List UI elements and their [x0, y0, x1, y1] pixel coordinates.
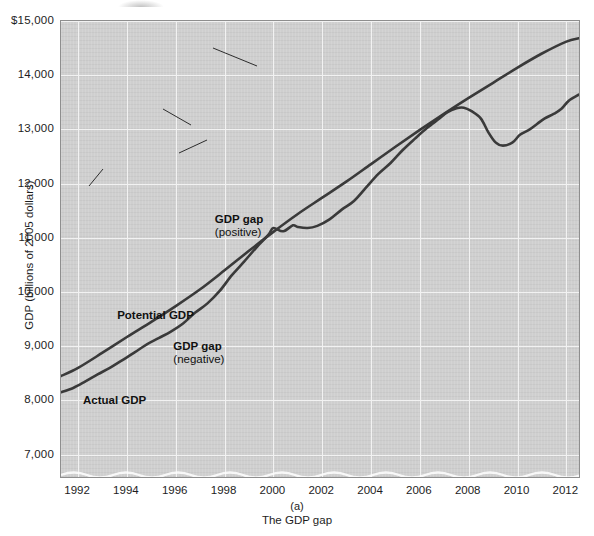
annotation-gdp-gap-positive-plain: (positive) [215, 226, 263, 240]
x-axis-tick-label: 2000 [260, 484, 286, 496]
annotation-potential-gdp: Potential GDP [117, 309, 194, 323]
gdp-gap-figure: GDP gap (positive) Potential GDP GDP gap… [0, 0, 594, 536]
x-axis-tick-label: 1992 [64, 484, 90, 496]
x-axis-tick-label: 1996 [162, 484, 188, 496]
x-axis-tick-label: 2006 [406, 484, 432, 496]
panel-title: The GDP gap [0, 514, 594, 526]
plot-area: GDP gap (positive) Potential GDP GDP gap… [60, 20, 580, 478]
y-axis-tick-label: $15,000 [0, 14, 54, 26]
y-axis-tick-label: 7,000 [0, 448, 54, 460]
annotation-actual-gdp-label: Actual GDP [83, 394, 146, 408]
annotation-gdp-gap-negative-bold: GDP gap [173, 340, 224, 354]
panel-letter: (a) [0, 500, 594, 512]
x-axis-tick-label: 1994 [113, 484, 139, 496]
y-axis-tick-label: 8,000 [0, 393, 54, 405]
annotation-gdp-gap-negative: GDP gap (negative) [173, 340, 224, 367]
annotation-potential-gdp-label: Potential GDP [117, 309, 194, 323]
y-axis-tick-label: 14,000 [0, 68, 54, 80]
x-axis-tick-label: 1998 [211, 484, 237, 496]
annotation-gdp-gap-negative-plain: (negative) [173, 353, 224, 367]
y-axis-tick-label: 13,000 [0, 122, 54, 134]
page-artifact-smudge [118, 0, 164, 7]
annotation-gdp-gap-positive-bold: GDP gap [215, 213, 263, 227]
annotation-actual-gdp: Actual GDP [83, 394, 146, 408]
y-axis-title: GDP (billions of 2005 dollars) [23, 140, 35, 370]
x-axis-tick-label: 2002 [308, 484, 334, 496]
x-axis-tick-label: 2012 [553, 484, 579, 496]
x-axis-tick-label: 2004 [357, 484, 383, 496]
axis-baseline-texture [61, 466, 580, 478]
x-axis-tick-label: 2010 [504, 484, 530, 496]
annotation-gdp-gap-positive: GDP gap (positive) [215, 213, 263, 240]
annotation-leader-lines [61, 21, 580, 478]
x-axis-tick-label: 2008 [455, 484, 481, 496]
